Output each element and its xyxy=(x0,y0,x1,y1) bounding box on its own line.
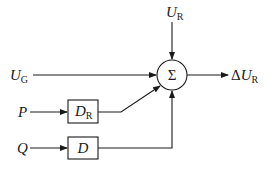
svg-text:P: P xyxy=(17,104,27,120)
svg-text:UR: UR xyxy=(166,4,184,22)
input-label-ug: UG xyxy=(10,67,28,85)
block-d: D xyxy=(68,137,98,159)
output-label-delta-ur: ΔUR xyxy=(231,67,259,85)
sigma-symbol: Σ xyxy=(168,67,177,83)
svg-text:D: D xyxy=(77,140,89,156)
input-label-q: Q xyxy=(17,140,28,156)
input-label-ur: UR xyxy=(166,4,184,22)
svg-text:Q: Q xyxy=(17,140,28,156)
block-diagram: UR Σ UG ΔUR P DR Q D xyxy=(0,0,265,169)
svg-text:ΔUR: ΔUR xyxy=(231,67,259,85)
d-output-arrow xyxy=(98,91,172,148)
svg-text:UG: UG xyxy=(10,67,28,85)
dr-output-arrow xyxy=(98,86,160,112)
block-dr: DR xyxy=(68,100,98,123)
summing-junction: Σ xyxy=(157,60,187,90)
input-label-p: P xyxy=(17,104,27,120)
